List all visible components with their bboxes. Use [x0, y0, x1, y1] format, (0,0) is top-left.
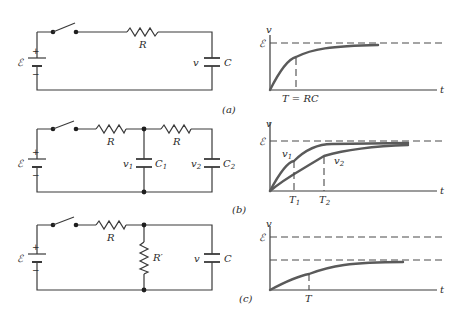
battery-icon	[28, 58, 46, 66]
switch-blade-icon	[53, 23, 75, 32]
panel-caption-c: (c)	[239, 293, 253, 304]
asymptote-label: ℰ	[259, 232, 266, 243]
capacitor-voltage-label: v	[194, 253, 200, 264]
capacitor-icon	[204, 58, 220, 66]
capacitor-icon	[136, 159, 152, 167]
time-constant-label: T	[305, 293, 313, 304]
emf-label: ℰ	[17, 158, 24, 169]
resistor-icon	[127, 28, 158, 36]
capacitor-label: C	[224, 253, 232, 264]
emf-label: ℰ	[17, 253, 24, 264]
battery-plus-label: +	[32, 242, 40, 252]
battery-icon	[28, 159, 46, 167]
resistor-icon	[96, 221, 126, 229]
asymptote-label: ℰ	[259, 38, 266, 49]
v2-curve-label: v2	[334, 155, 345, 168]
battery-minus-label: −	[32, 265, 40, 275]
capacitor-icon	[204, 254, 220, 262]
c1-label: C1	[155, 158, 167, 171]
v1-curve-label: v1	[282, 148, 292, 161]
t1-label: T1	[289, 194, 300, 207]
circuit-c: + − ℰ R R′ v C	[17, 217, 232, 292]
x-axis-label: t	[440, 284, 445, 295]
switch-terminal-icon	[74, 223, 79, 228]
y-axis-label: v	[266, 218, 272, 229]
v1-label: v1	[123, 158, 133, 171]
graph-a: v ℰ t T = RC	[259, 24, 445, 104]
emf-label: ℰ	[17, 57, 24, 68]
junction-dot	[142, 190, 147, 195]
time-constant-label: T = RC	[282, 93, 319, 104]
shunt-resistor-label: R′	[152, 252, 164, 263]
battery-plus-label: +	[32, 46, 40, 56]
t2-label: T2	[319, 194, 331, 207]
battery-minus-label: −	[32, 69, 40, 79]
x-axis-label: t	[440, 185, 445, 196]
resistor-icon	[161, 125, 191, 133]
capacitor-voltage-label: v	[193, 57, 199, 68]
graph-c: v ℰ t T	[259, 218, 445, 304]
switch-blade-icon	[53, 217, 74, 225]
resistor-icon	[96, 125, 126, 133]
charging-curve	[270, 45, 378, 90]
junction-dot	[142, 288, 147, 293]
switch-terminal-icon	[74, 30, 79, 35]
switch-blade-icon	[53, 121, 74, 129]
graph-b: v ℰ t v1 v2 T1 T2	[259, 118, 445, 207]
battery-minus-label: −	[32, 170, 40, 180]
resistor-label: R	[106, 232, 115, 243]
circuit-b: + − ℰ R R v1 C1 v2 C2	[17, 121, 236, 194]
v2-label: v2	[191, 158, 202, 171]
resistor-label: R	[138, 39, 147, 50]
capacitor-label: C	[224, 57, 232, 68]
battery-icon	[28, 254, 46, 262]
resistor-label: R	[106, 136, 115, 147]
junction-dot	[142, 127, 147, 132]
c2-label: C2	[223, 158, 236, 171]
battery-plus-label: +	[32, 147, 40, 157]
y-axis-label: v	[266, 24, 272, 35]
v2-curve	[270, 145, 408, 191]
y-axis-label: v	[266, 118, 272, 129]
shunt-resistor-icon	[140, 242, 148, 274]
resistor-label: R	[172, 136, 181, 147]
panel-caption-b: (b)	[232, 204, 246, 215]
asymptote-label: ℰ	[259, 136, 266, 147]
panel-caption-a: (a)	[222, 104, 236, 115]
circuit-a: + − ℰ R v C	[17, 23, 232, 90]
rc-circuits-figure: + − ℰ R v C (a) v ℰ t T = RC	[0, 0, 454, 330]
capacitor-icon	[204, 159, 220, 167]
switch-terminal-icon	[74, 127, 79, 132]
x-axis-label: t	[440, 84, 445, 95]
charging-curve	[270, 262, 403, 290]
junction-dot	[142, 223, 147, 228]
